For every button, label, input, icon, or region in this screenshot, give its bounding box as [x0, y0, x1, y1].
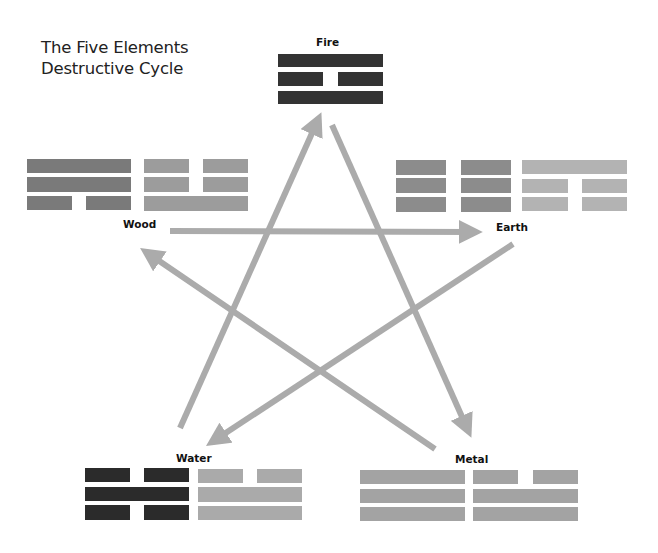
arrow-earth-to-water [215, 244, 513, 440]
arrow-fire-to-metal [332, 125, 467, 428]
arrow-wood-to-earth [170, 231, 472, 232]
arrow-metal-to-wood [149, 254, 435, 449]
arrow-water-to-fire [180, 122, 317, 428]
destructive-cycle-arrows [0, 0, 658, 553]
